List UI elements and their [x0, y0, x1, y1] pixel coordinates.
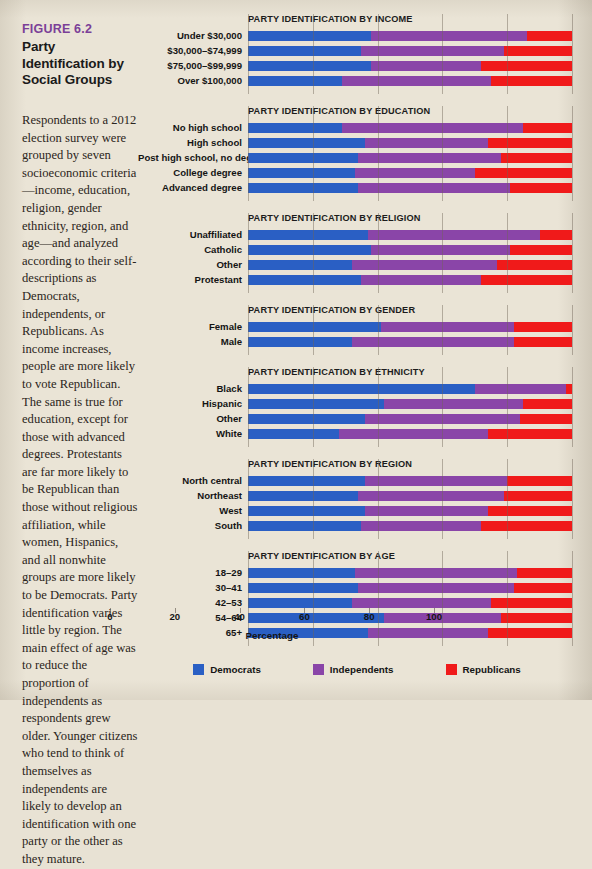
bar-segment-republicans	[514, 322, 572, 332]
axis-tick-label: 100	[426, 611, 442, 622]
stacked-bar	[248, 491, 572, 501]
chart-row: Northeast	[138, 488, 576, 503]
panel-title: PARTY IDENTIFICATION BY EDUCATION	[248, 106, 430, 116]
axis-tick-label: 40	[234, 611, 245, 622]
bar-segment-democrats	[248, 168, 355, 178]
legend-swatch-icon	[313, 664, 324, 675]
chart-panel: PARTY IDENTIFICATION BY GENDERFemaleMale	[138, 305, 576, 355]
bar-segment-democrats	[248, 260, 352, 270]
legend-label: Democrats	[210, 664, 261, 675]
bar-segment-independents	[361, 46, 504, 56]
bar-segment-democrats	[248, 31, 371, 41]
chart-row: High school	[138, 135, 576, 150]
legend-swatch-icon	[193, 664, 204, 675]
bar-segment-independents	[358, 153, 501, 163]
bar-segment-republicans	[514, 583, 572, 593]
bar-segment-democrats	[248, 46, 361, 56]
bar-segment-independents	[371, 31, 527, 41]
bar-segment-republicans	[527, 31, 572, 41]
chart-row: Catholic	[138, 242, 576, 257]
panel-rows: UnaffiliatedCatholicOtherProtestant	[138, 227, 576, 287]
bar-segment-democrats	[248, 322, 381, 332]
panel-rows: No high schoolHigh schoolPost high schoo…	[138, 120, 576, 195]
bar-segment-republicans	[540, 230, 572, 240]
bar-segment-republicans	[488, 138, 572, 148]
legend-item-ind: Independents	[313, 664, 394, 675]
bar-segment-democrats	[248, 123, 342, 133]
axis-tick-label: 60	[299, 611, 310, 622]
bar-segment-republicans	[514, 337, 572, 347]
bar-segment-republicans	[507, 476, 572, 486]
stacked-bar	[248, 76, 572, 86]
chart-row: White	[138, 426, 576, 441]
chart-row: Female	[138, 319, 576, 334]
legend-item-dem: Democrats	[193, 664, 261, 675]
bar-segment-independents	[342, 76, 491, 86]
bar-segment-democrats	[248, 506, 365, 516]
chart-row: North central	[138, 473, 576, 488]
panel-title: PARTY IDENTIFICATION BY INCOME	[248, 14, 413, 24]
stacked-bar	[248, 61, 572, 71]
bar-segment-republicans	[504, 46, 572, 56]
stacked-bar	[248, 138, 572, 148]
stacked-bar	[248, 168, 572, 178]
bar-segment-independents	[365, 476, 508, 486]
bar-segment-democrats	[248, 399, 384, 409]
row-label: 18–29	[138, 567, 248, 578]
bar-segment-democrats	[248, 521, 361, 531]
figure-number: FIGURE 6.2	[22, 22, 134, 36]
bar-segment-republicans	[475, 168, 572, 178]
bar-segment-republicans	[488, 429, 572, 439]
row-label: Male	[138, 336, 248, 347]
bar-segment-democrats	[248, 61, 371, 71]
bar-segment-independents	[355, 568, 517, 578]
row-label: Black	[138, 383, 248, 394]
bar-segment-republicans	[523, 399, 572, 409]
bar-segment-independents	[368, 230, 540, 240]
chart-row: Post high school, no degree	[138, 150, 576, 165]
bar-segment-independents	[342, 123, 523, 133]
bar-segment-independents	[361, 521, 481, 531]
bar-segment-independents	[358, 491, 504, 501]
row-label: No high school	[138, 122, 248, 133]
bar-segment-democrats	[248, 183, 358, 193]
bar-segment-independents	[371, 245, 510, 255]
stacked-bar	[248, 46, 572, 56]
stacked-bar	[248, 583, 572, 593]
bar-segment-republicans	[501, 153, 572, 163]
bar-segment-independents	[352, 337, 514, 347]
row-label: West	[138, 505, 248, 516]
stacked-bar	[248, 153, 572, 163]
stacked-bar	[248, 429, 572, 439]
bar-segment-independents	[365, 414, 521, 424]
stacked-bar	[248, 183, 572, 193]
chart-row: Male	[138, 334, 576, 349]
bar-segment-republicans	[510, 245, 572, 255]
row-label: Other	[138, 259, 248, 270]
row-label: College degree	[138, 167, 248, 178]
bar-segment-independents	[339, 429, 488, 439]
bar-segment-independents	[352, 598, 491, 608]
row-label: North central	[138, 475, 248, 486]
bar-segment-republicans	[488, 628, 572, 638]
panel-title: PARTY IDENTIFICATION BY REGION	[248, 459, 412, 469]
chart-row: West	[138, 503, 576, 518]
bar-segment-republicans	[488, 506, 572, 516]
panel-title: PARTY IDENTIFICATION BY ETHNICITY	[248, 367, 425, 377]
chart-row: 18–29	[138, 565, 576, 580]
row-label: Under $30,000	[138, 30, 248, 41]
bar-segment-republicans	[481, 275, 572, 285]
chart-panel: PARTY IDENTIFICATION BY INCOMEUnder $30,…	[138, 14, 576, 94]
row-label: Post high school, no degree	[138, 152, 248, 163]
bar-segment-democrats	[248, 583, 358, 593]
chart-row: Advanced degree	[138, 180, 576, 195]
bar-segment-republicans	[481, 61, 572, 71]
chart-row: South	[138, 518, 576, 533]
row-label: White	[138, 428, 248, 439]
row-label: Advanced degree	[138, 182, 248, 193]
panel-rows: Under $30,000$30,000–$74,999$75,000–$99,…	[138, 28, 576, 88]
stacked-bar	[248, 275, 572, 285]
bar-segment-independents	[384, 399, 523, 409]
stacked-bar	[248, 506, 572, 516]
chart-panel: PARTY IDENTIFICATION BY REGIONNorth cent…	[138, 459, 576, 539]
